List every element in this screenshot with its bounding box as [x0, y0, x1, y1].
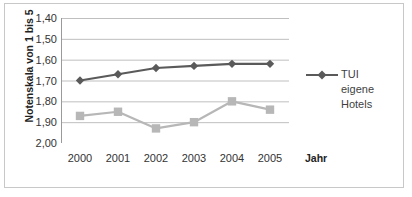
data-point-marker: [76, 76, 84, 84]
x-tick-label: 2003: [174, 152, 214, 164]
data-point-marker: [114, 108, 122, 116]
y-tick-label: 1,40: [23, 13, 57, 23]
x-tick-label: 2005: [250, 152, 290, 164]
legend-label-line-2: eigene: [341, 82, 397, 97]
y-axis-tick-labels: 1,401,501,601,701,801,902,00: [23, 4, 57, 187]
x-axis-tick-labels: 200020012002200320042005: [61, 152, 289, 168]
series-2: [76, 97, 274, 132]
y-tick-label: 1,80: [23, 96, 57, 106]
data-point-marker: [228, 97, 236, 105]
y-tick-label: 1,50: [23, 34, 57, 44]
data-point-marker: [152, 64, 160, 72]
legend-marker-icon: [305, 69, 339, 81]
chart-container: Notenskala von 1 bis 5 1,401,501,601,701…: [4, 3, 404, 188]
data-point-marker: [228, 60, 236, 68]
y-tick-label: 1,90: [23, 117, 57, 127]
data-point-marker: [190, 62, 198, 70]
legend-label-line-1: TUI: [341, 67, 397, 82]
data-point-marker: [266, 105, 274, 113]
y-tick-label: 1,60: [23, 55, 57, 65]
x-tick-label: 2000: [60, 152, 100, 164]
y-tick-label: 1,70: [23, 76, 57, 86]
y-tick-label: 2,00: [23, 138, 57, 148]
legend-item: TUI eigene Hotels: [305, 67, 397, 112]
x-tick-label: 2004: [212, 152, 252, 164]
data-point-marker: [114, 70, 122, 78]
x-tick-label: 2001: [98, 152, 138, 164]
chart-legend: TUI eigene Hotels: [305, 67, 397, 112]
chart-svg: [61, 18, 289, 143]
x-axis-title: Jahr: [305, 152, 327, 164]
data-point-marker: [266, 60, 274, 68]
data-point-marker: [190, 118, 198, 126]
data-point-marker: [152, 124, 160, 132]
data-series-layer: [76, 60, 274, 133]
x-tick-label: 2002: [136, 152, 176, 164]
plot-area: [61, 18, 289, 143]
data-point-marker: [76, 112, 84, 120]
legend-label-line-3: Hotels: [341, 97, 397, 112]
